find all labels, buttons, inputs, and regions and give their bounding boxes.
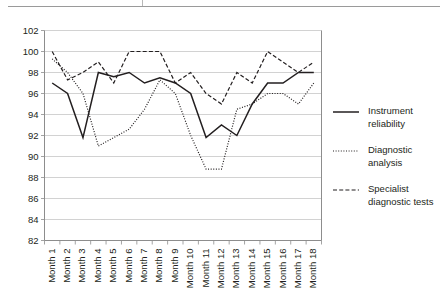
y-tick-label: 86 bbox=[28, 193, 39, 204]
y-tick-label: 84 bbox=[28, 214, 39, 225]
y-tick-label: 94 bbox=[28, 109, 39, 120]
data-series-group bbox=[52, 52, 314, 170]
x-tick-label: Month 8 bbox=[153, 249, 164, 283]
y-tick-label: 102 bbox=[23, 25, 39, 36]
x-axis-tick-labels: Month 1Month 2Month 3Month 4Month 5Month… bbox=[46, 249, 319, 289]
legend-label-line1: Specialist bbox=[368, 183, 409, 194]
x-tick-label: Month 13 bbox=[230, 249, 241, 289]
legend-label-line2: analysis bbox=[368, 157, 403, 168]
y-tick-mark-group bbox=[41, 31, 45, 241]
legend-label-line2: reliability bbox=[368, 118, 405, 129]
x-tick-label: Month 16 bbox=[277, 249, 288, 289]
x-tick-mark-group bbox=[45, 241, 322, 245]
x-tick-label: Month 18 bbox=[307, 249, 318, 289]
x-tick-label: Month 9 bbox=[169, 249, 180, 283]
legend-label-line1: Diagnostic bbox=[368, 144, 413, 155]
y-tick-label: 82 bbox=[28, 235, 39, 246]
header-divider bbox=[8, 6, 440, 7]
chart-figure: 828486889092949698100102 Month 1Month 2M… bbox=[0, 0, 447, 308]
chart-legend: InstrumentreliabilityDiagnosticanalysisS… bbox=[333, 105, 434, 207]
x-tick-label: Month 12 bbox=[215, 249, 226, 289]
y-tick-label: 92 bbox=[28, 130, 39, 141]
x-tick-label: Month 2 bbox=[61, 249, 72, 283]
legend-label-line1: Instrument bbox=[368, 105, 413, 116]
series-line-2 bbox=[52, 59, 314, 169]
y-tick-label: 88 bbox=[28, 172, 39, 183]
y-tick-label: 90 bbox=[28, 151, 39, 162]
y-tick-label: 98 bbox=[28, 67, 39, 78]
y-tick-label: 96 bbox=[28, 88, 39, 99]
line-chart: 828486889092949698100102 Month 1Month 2M… bbox=[0, 0, 447, 308]
y-axis-tick-labels: 828486889092949698100102 bbox=[23, 25, 39, 246]
x-tick-label: Month 17 bbox=[292, 249, 303, 289]
series-line-1 bbox=[52, 73, 314, 138]
header-tick-mark bbox=[142, 0, 143, 6]
x-tick-label: Month 3 bbox=[76, 249, 87, 283]
x-tick-label: Month 1 bbox=[46, 249, 57, 283]
x-tick-label: Month 7 bbox=[138, 249, 149, 283]
x-tick-label: Month 6 bbox=[123, 249, 134, 283]
x-tick-label: Month 5 bbox=[107, 249, 118, 283]
x-tick-label: Month 4 bbox=[92, 249, 103, 283]
x-tick-label: Month 15 bbox=[261, 249, 272, 289]
y-tick-label: 100 bbox=[23, 46, 39, 57]
x-tick-label: Month 10 bbox=[184, 249, 195, 289]
series-line-3 bbox=[52, 52, 314, 105]
x-tick-label: Month 11 bbox=[200, 249, 211, 288]
x-tick-label: Month 14 bbox=[246, 249, 257, 289]
legend-label-line2: diagnostic tests bbox=[368, 196, 434, 207]
